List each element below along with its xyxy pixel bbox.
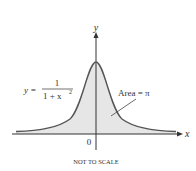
area-label: Area = π xyxy=(118,88,150,98)
caption: NOT TO SCALE xyxy=(73,158,119,165)
equation-denominator: 1 + x xyxy=(43,91,62,101)
equation-numerator: 1 xyxy=(55,78,60,88)
x-axis-arrow-icon xyxy=(177,132,183,137)
equation: y = 1 1 + x 2 xyxy=(23,78,73,101)
y-axis-label: y xyxy=(93,22,99,33)
diagram-canvas: y x 0 y = 1 1 + x 2 Area = π NOT TO SCAL… xyxy=(0,0,196,171)
equation-lhs: y = xyxy=(23,85,36,95)
x-axis-label: x xyxy=(184,128,190,139)
origin-label: 0 xyxy=(87,137,92,147)
equation-exponent: 2 xyxy=(69,89,72,95)
